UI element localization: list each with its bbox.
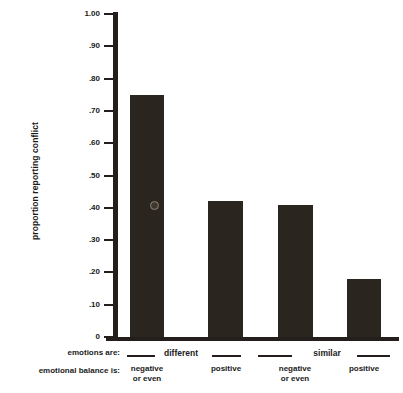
emotional-balance-row-label: emotional balance is: bbox=[0, 366, 120, 375]
y-tick-label-text: .40 bbox=[66, 203, 100, 212]
condition-label-line1: negative bbox=[117, 364, 177, 374]
y-axis-line bbox=[113, 12, 118, 339]
condition-label-line1: positive bbox=[196, 364, 256, 374]
y-tick-label-text: 1.00 bbox=[66, 9, 100, 18]
y-tick-label-text: .50 bbox=[66, 171, 100, 180]
bar bbox=[347, 279, 381, 337]
condition-label-line2: or even bbox=[265, 374, 325, 384]
y-tick-label: .40 bbox=[62, 203, 100, 213]
y-tick-label-text: .10 bbox=[66, 300, 100, 309]
condition-label-line1: positive bbox=[334, 364, 394, 374]
y-tick-label: .60 bbox=[62, 138, 100, 148]
y-tick-label: .90 bbox=[62, 41, 100, 51]
y-tick-label-text: .70 bbox=[66, 106, 100, 115]
y-tick-label: 1.00 bbox=[62, 9, 100, 19]
condition-label: negativeor even bbox=[117, 364, 177, 383]
y-tick-mark bbox=[104, 304, 113, 306]
y-tick-mark bbox=[104, 78, 113, 80]
y-tick-mark bbox=[104, 336, 113, 338]
y-tick-label: .50 bbox=[62, 171, 100, 181]
y-tick-label-text: .30 bbox=[66, 235, 100, 244]
y-axis-title: proportion reporting conflict bbox=[30, 86, 40, 276]
y-tick-label: .10 bbox=[62, 300, 100, 310]
y-tick-label-text: .20 bbox=[66, 267, 100, 276]
y-tick-label: .20 bbox=[62, 267, 100, 277]
condition-label: negativeor even bbox=[265, 364, 325, 383]
y-tick-mark bbox=[104, 175, 113, 177]
y-tick-mark bbox=[104, 45, 113, 47]
y-tick-label: 0 bbox=[62, 332, 100, 342]
group-rule bbox=[357, 355, 390, 357]
condition-label: positive bbox=[196, 364, 256, 374]
y-tick-label-text: .90 bbox=[66, 41, 100, 50]
condition-label: positive bbox=[334, 364, 394, 374]
y-tick-mark bbox=[104, 207, 113, 209]
y-tick-label: .70 bbox=[62, 106, 100, 116]
bar-chart-figure: proportion reporting conflict 1.00.90.80… bbox=[0, 0, 403, 393]
y-tick-label-text: 0 bbox=[66, 332, 100, 341]
y-tick-label-text: .60 bbox=[66, 138, 100, 147]
bar bbox=[278, 205, 313, 337]
group-rule bbox=[212, 355, 241, 357]
y-tick-mark bbox=[104, 142, 113, 144]
group-rule bbox=[258, 355, 292, 357]
condition-label-line1: negative bbox=[265, 364, 325, 374]
y-tick-mark bbox=[104, 110, 113, 112]
emotions-are-row-label: emotions are: bbox=[0, 348, 120, 357]
y-tick-mark bbox=[104, 271, 113, 273]
bar bbox=[208, 201, 243, 337]
group-label: different bbox=[156, 348, 206, 358]
bar bbox=[130, 95, 164, 337]
y-tick-mark bbox=[104, 239, 113, 241]
y-tick-mark bbox=[104, 13, 113, 15]
y-tick-label-text: .80 bbox=[66, 74, 100, 83]
scan-artifact-mark bbox=[150, 201, 159, 210]
y-tick-label: .30 bbox=[62, 235, 100, 245]
x-axis-line bbox=[106, 337, 399, 341]
y-tick-label: .80 bbox=[62, 74, 100, 84]
group-label: similar bbox=[302, 348, 352, 358]
condition-label-line2: or even bbox=[117, 374, 177, 384]
group-rule bbox=[127, 355, 155, 357]
